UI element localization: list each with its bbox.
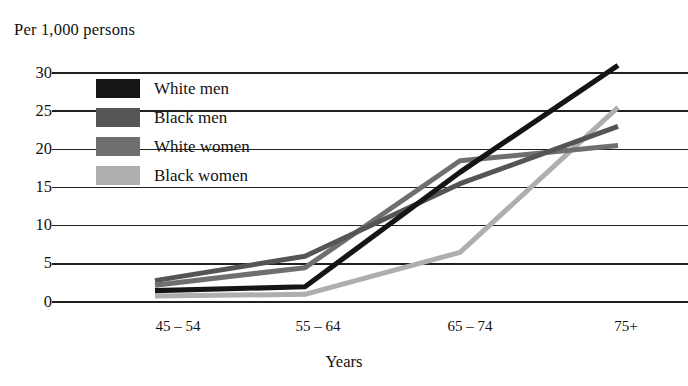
legend-item-white-women: White women bbox=[96, 132, 311, 161]
x-axis-title: Years bbox=[0, 352, 688, 372]
legend-label-white-women: White women bbox=[154, 138, 250, 155]
legend-swatch-black-women bbox=[96, 166, 140, 185]
legend-item-black-men: Black men bbox=[96, 103, 311, 132]
plot-area bbox=[0, 0, 688, 386]
legend-swatch-black-men bbox=[96, 108, 140, 127]
legend-item-white-men: White men bbox=[96, 74, 311, 103]
legend-swatch-white-men bbox=[96, 79, 140, 98]
legend: White men Black men White women Black wo… bbox=[96, 74, 311, 190]
legend-item-black-women: Black women bbox=[96, 161, 311, 190]
x-tick-45-54: 45 – 54 bbox=[156, 318, 201, 335]
legend-label-black-women: Black women bbox=[154, 167, 248, 184]
legend-swatch-white-women bbox=[96, 137, 140, 156]
legend-label-black-men: Black men bbox=[154, 109, 227, 126]
x-tick-75plus: 75+ bbox=[614, 318, 637, 335]
line-chart: Per 1,000 persons 30 25 20 15 10 5 0 Whi… bbox=[0, 0, 688, 386]
x-tick-55-64: 55 – 64 bbox=[296, 318, 341, 335]
x-tick-65-74: 65 – 74 bbox=[448, 318, 493, 335]
legend-label-white-men: White men bbox=[154, 80, 229, 97]
